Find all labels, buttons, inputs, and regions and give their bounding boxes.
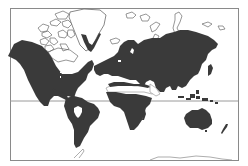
tasmania bbox=[205, 130, 207, 132]
world-map bbox=[0, 0, 248, 166]
